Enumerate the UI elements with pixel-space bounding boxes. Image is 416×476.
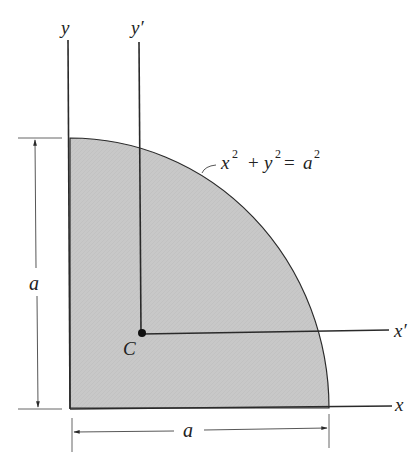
eq-equals: =: [284, 152, 295, 173]
eq-x: x: [220, 152, 230, 173]
y-prime-axis-label: y′: [129, 17, 144, 38]
curve-equation-label: x 2 + y 2 = a 2: [220, 147, 320, 173]
quarter-circle-area: [70, 138, 329, 408]
width-dimension-label: a: [183, 419, 193, 441]
svg-text:2: 2: [232, 147, 238, 161]
equation-leader-line: [202, 165, 216, 173]
width-dim-arrow-left: [74, 431, 174, 432]
height-dimension-label: a: [29, 272, 39, 294]
width-dim-arrow-right: [204, 428, 327, 430]
svg-text:a: a: [303, 152, 313, 173]
svg-text:=: =: [284, 152, 295, 173]
centroid-point: [138, 329, 146, 337]
eq-plus: +: [248, 152, 259, 173]
svg-text:2: 2: [275, 147, 281, 161]
eq-a: a: [303, 152, 313, 173]
eq-exp2: 2: [275, 147, 281, 161]
x-axis-label: x: [394, 394, 404, 415]
eq-y: y: [262, 152, 273, 173]
y-axis: [68, 40, 70, 409]
height-dim-arrow-up: [35, 140, 36, 268]
svg-text:+: +: [248, 152, 259, 173]
eq-exp3: 2: [314, 147, 320, 161]
centroid-label: C: [123, 338, 136, 359]
svg-text:2: 2: [314, 147, 320, 161]
x-prime-axis-label: x′: [393, 320, 407, 341]
eq-exp1: 2: [232, 147, 238, 161]
svg-text:x: x: [220, 152, 230, 173]
y-axis-label: y: [59, 17, 70, 38]
quarter-circle-diagram: y y′ x x′ C a a x 2 + y 2 = a 2: [0, 0, 416, 476]
height-dim-arrow-down: [37, 296, 38, 407]
svg-text:y: y: [262, 152, 273, 173]
